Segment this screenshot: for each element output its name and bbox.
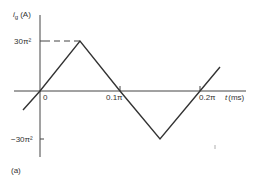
x-tick-label-0: 0 — [43, 93, 48, 102]
x-axis-label: t(ms) — [225, 93, 245, 102]
y-tick-label-neg: −30π² — [11, 135, 33, 144]
waveform-line — [23, 41, 220, 139]
panel-label: (a) — [11, 166, 21, 175]
x-tick-label-0.1pi: 0.1π — [106, 93, 123, 102]
chart-canvas: ig(A) 30π² −30π² 0 0.1π 0.2π t(ms) (a) — [0, 0, 257, 190]
y-tick-label-pos: 30π² — [14, 37, 31, 46]
x-tick-label-0.2pi: 0.2π — [199, 93, 216, 102]
y-axis-label: ig(A) — [13, 10, 31, 20]
